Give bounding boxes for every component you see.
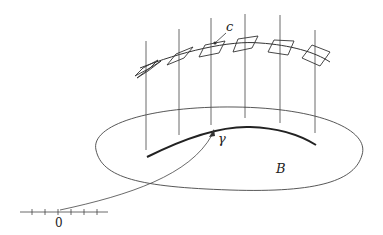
- label-origin: 0: [55, 216, 63, 230]
- label-gamma: γ: [218, 131, 226, 146]
- tangent-planes: [135, 36, 330, 78]
- fibers: [146, 14, 315, 150]
- real-axis: [20, 209, 108, 215]
- label-base: B: [275, 161, 286, 176]
- map-arrow: [60, 135, 212, 210]
- base-region: [96, 107, 363, 190]
- fiber-bundle-diagram: c γ B 0: [0, 0, 383, 235]
- label-c: c: [226, 19, 234, 34]
- curve-gamma: [147, 127, 316, 157]
